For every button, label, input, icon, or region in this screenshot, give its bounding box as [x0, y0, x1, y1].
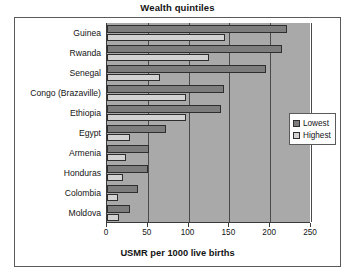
bar-lowest: [107, 125, 166, 133]
category-label: Armenia: [69, 148, 101, 158]
chart-legend: LowestHighest: [289, 113, 336, 145]
x-tick-label: 250: [303, 228, 317, 237]
x-tick-mark: [188, 223, 189, 227]
category-label: Colombia: [65, 188, 101, 198]
bar-lowest: [107, 65, 266, 73]
plot-area: [106, 23, 310, 223]
category-label: Egypt: [79, 128, 101, 138]
bar-lowest: [107, 85, 224, 93]
bar-highest: [107, 154, 126, 162]
bar-lowest: [107, 165, 148, 173]
bar-highest: [107, 134, 130, 142]
legend-item-lowest[interactable]: Lowest: [293, 117, 331, 129]
bar-highest: [107, 114, 186, 122]
x-tick-mark: [269, 223, 270, 227]
bar-highest: [107, 174, 123, 182]
bar-group: [107, 103, 310, 123]
x-tick-label: 50: [142, 228, 151, 237]
category-label: Honduras: [64, 168, 101, 178]
bar-highest: [107, 214, 119, 222]
legend-swatch-icon: [293, 120, 300, 127]
legend-item-highest[interactable]: Highest: [293, 129, 331, 141]
bar-lowest: [107, 185, 138, 193]
chart-title: Wealth quintiles: [0, 2, 355, 13]
bar-highest: [107, 34, 225, 42]
x-tick-mark: [310, 223, 311, 227]
category-label: Moldova: [69, 208, 101, 218]
bar-lowest: [107, 45, 282, 53]
bar-highest: [107, 194, 118, 202]
x-tick-label: 200: [262, 228, 276, 237]
category-label: Senegal: [69, 68, 101, 78]
category-label: Guinea: [73, 28, 101, 38]
x-tick-mark: [228, 223, 229, 227]
x-tick-mark: [106, 223, 107, 227]
x-tick-mark: [147, 223, 148, 227]
bar-group: [107, 63, 310, 83]
x-tick-label: 150: [222, 228, 236, 237]
bar-lowest: [107, 25, 287, 33]
legend-label: Highest: [303, 131, 331, 140]
category-label: Congo (Brazaville): [30, 88, 101, 98]
category-axis-labels: GuineaRwandaSenegalCongo (Brazaville)Eth…: [14, 23, 104, 223]
bar-lowest: [107, 145, 149, 153]
value-axis-ticks: 050100150200250: [106, 223, 310, 245]
bar-lowest: [107, 105, 221, 113]
x-tick-label: 0: [104, 228, 109, 237]
bar-highest: [107, 94, 186, 102]
legend-swatch-icon: [293, 132, 300, 139]
bar-group: [107, 43, 310, 63]
bar-group: [107, 23, 310, 43]
category-label: Ethiopia: [70, 108, 101, 118]
category-label: Rwanda: [69, 48, 101, 58]
legend-label: Lowest: [303, 119, 329, 128]
x-tick-label: 100: [181, 228, 195, 237]
bar-highest: [107, 54, 209, 62]
bar-group: [107, 143, 310, 163]
bar-group: [107, 123, 310, 143]
bar-lowest: [107, 205, 130, 213]
bar-group: [107, 163, 310, 183]
bar-group: [107, 203, 310, 223]
x-axis-title: USMR per 1000 live births: [14, 248, 341, 258]
bar-group: [107, 83, 310, 103]
wealth-quintiles-chart: Wealth quintiles GuineaRwandaSenegalCong…: [0, 0, 355, 277]
bar-highest: [107, 74, 160, 82]
bar-group: [107, 183, 310, 203]
